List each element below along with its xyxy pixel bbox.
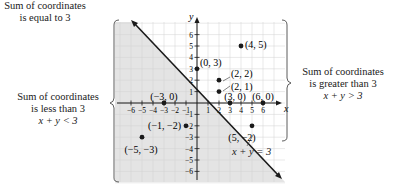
y-tick-label: 6 bbox=[189, 31, 193, 40]
x-tick-label: 1 bbox=[206, 106, 210, 115]
y-tick-label: 5 bbox=[189, 42, 193, 51]
line-equation-label: x + y = 3 bbox=[232, 146, 271, 157]
right-annotation-line1: Sum of coordinates bbox=[291, 66, 394, 78]
x-tick-label: −6 bbox=[127, 106, 135, 115]
y-tick-label: −6 bbox=[185, 167, 193, 176]
point-label: (−3, 0) bbox=[150, 91, 177, 103]
x-axis-label: x bbox=[283, 103, 289, 114]
data-point bbox=[184, 123, 189, 128]
x-tick-label: 6 bbox=[261, 106, 265, 115]
y-tick-label: 1 bbox=[189, 88, 193, 97]
right-brace bbox=[282, 20, 291, 141]
x-axis-arrow-icon bbox=[276, 101, 282, 106]
left-annotation-line2: is less than 3 bbox=[2, 103, 114, 115]
data-point bbox=[239, 44, 244, 49]
point-label: (−1, −2) bbox=[148, 120, 181, 132]
x-tick-label: −5 bbox=[138, 106, 146, 115]
x-tick-label: −2 bbox=[171, 106, 179, 115]
y-tick-label: −3 bbox=[185, 133, 193, 142]
y-tick-label: −5 bbox=[185, 156, 193, 165]
y-tick-label: −1 bbox=[185, 110, 193, 119]
left-annotation-inequality: x + y < 3 bbox=[2, 115, 114, 127]
right-annotation-line2: is greater than 3 bbox=[291, 78, 394, 90]
y-axis-arrow-icon bbox=[195, 17, 200, 23]
right-annotation-inequality: x + y > 3 bbox=[291, 90, 394, 102]
x-tick-label: 3 bbox=[228, 106, 232, 115]
point-label: (−5, −3) bbox=[125, 144, 158, 156]
x-tick-label: 5 bbox=[250, 106, 254, 115]
data-point bbox=[140, 135, 145, 140]
x-tick-label: −4 bbox=[149, 106, 157, 115]
y-tick-label: 3 bbox=[189, 65, 193, 74]
data-point bbox=[217, 78, 222, 83]
point-label: (2, 2) bbox=[231, 68, 253, 80]
point-label: (6, 0) bbox=[252, 91, 274, 103]
left-annotation: Sum of coordinates is less than 3 x + y … bbox=[2, 91, 114, 127]
data-point bbox=[217, 89, 222, 94]
data-point bbox=[250, 123, 255, 128]
right-annotation: Sum of coordinates is greater than 3 x +… bbox=[291, 66, 394, 102]
point-label: (0, 3) bbox=[200, 57, 222, 69]
x-tick-label: −3 bbox=[160, 106, 168, 115]
point-label: (3, 0) bbox=[224, 91, 246, 103]
y-axis-label: y bbox=[188, 11, 194, 22]
y-tick-label: −4 bbox=[185, 145, 193, 154]
x-tick-label: 4 bbox=[239, 106, 243, 115]
data-point bbox=[195, 66, 200, 71]
point-label: (4, 5) bbox=[245, 39, 267, 51]
y-tick-label: 4 bbox=[189, 53, 193, 62]
left-annotation-line1: Sum of coordinates bbox=[2, 91, 114, 103]
